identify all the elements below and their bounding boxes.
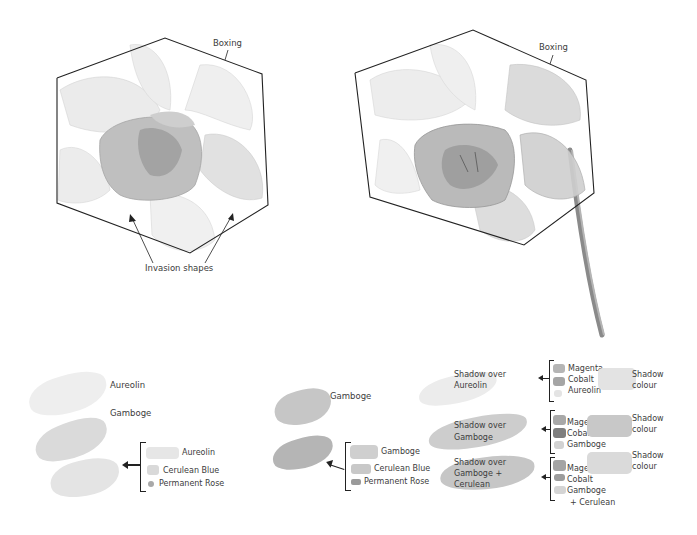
swatch-panel-right: Shadow over Aureolin Magenta Cobalt Aure… xyxy=(410,355,697,535)
aureolin-swatch xyxy=(24,364,112,425)
comp-swatch-gamboge-2 xyxy=(554,441,564,449)
comp-label-gamboge-3: Gamboge xyxy=(567,486,606,497)
comp-swatch-magenta-1 xyxy=(553,364,565,373)
comp-label-aureolin-1: Aureolin xyxy=(568,386,601,397)
gamboge-label: Gamboge xyxy=(110,408,151,419)
mix-swatch-cerulean-blue xyxy=(147,465,159,475)
mix-swatch-permanent-rose xyxy=(148,481,154,487)
mix-label-permanent-rose: Permanent Rose xyxy=(159,479,224,490)
arrow-head-group3 xyxy=(541,474,546,480)
shadow-result-label-1-line1: Shadow xyxy=(632,370,664,381)
shadow-base-gamboge xyxy=(426,407,530,457)
left-daffodil-figure: Boxing Invasion shapes xyxy=(0,0,340,300)
shadow-result-swatch-3 xyxy=(587,452,632,474)
invasion-shapes-label: Invasion shapes xyxy=(145,263,213,274)
mix-swatch-cerulean-middle xyxy=(351,464,371,474)
comp-label-cobalt-3: Cobalt xyxy=(567,475,593,486)
comp-swatch-gamboge-3 xyxy=(554,486,566,494)
mix-swatch-gamboge xyxy=(350,445,378,459)
shadow-result-label-3-line1: Shadow xyxy=(632,451,664,462)
comp-swatch-cobalt-2 xyxy=(553,428,566,438)
shadow-result-label-2-line1: Shadow xyxy=(632,414,664,425)
shadow-title-aureolin-line1: Shadow over xyxy=(454,370,506,381)
shadow-result-label-1-line2: colour xyxy=(632,381,657,392)
right-boxing-label: Boxing xyxy=(539,42,568,53)
mixed-swatch-middle xyxy=(269,429,337,477)
shadow-title-gc-line1: Shadow over xyxy=(454,458,506,469)
gamboge-swatch-middle xyxy=(270,382,336,432)
aureolin-label: Aureolin xyxy=(110,380,145,391)
comp-swatch-cobalt-1 xyxy=(553,377,565,386)
mix-label-aureolin: Aureolin xyxy=(182,448,215,459)
shadow-title-gc-line2: Gamboge + xyxy=(454,469,502,480)
comp-label-cobalt-1: Cobalt xyxy=(568,375,594,386)
shadow-result-label-2-line2: colour xyxy=(632,425,657,436)
shadow-title-gamboge-line2: Gamboge xyxy=(454,433,493,444)
gamboge-label-middle: Gamboge xyxy=(330,391,371,402)
shadow-result-swatch-2 xyxy=(587,415,632,437)
shadow-title-gc-line3: Cerulean xyxy=(454,480,490,491)
comp-label-gamboge-2: Gamboge xyxy=(567,440,606,451)
mix-label-cerulean-blue: Cerulean Blue xyxy=(163,466,219,477)
comp-swatch-magenta-2 xyxy=(553,415,566,425)
comp-swatch-cobalt-3 xyxy=(554,474,565,481)
arrow-head-group2 xyxy=(541,426,546,432)
swatch-panel-left: Aureolin Gamboge Aureolin Cerulean Blue … xyxy=(0,360,260,535)
shadow-result-label-3-line2: colour xyxy=(632,462,657,473)
comp-swatch-magenta-3 xyxy=(553,460,566,471)
right-daffodil-illustration xyxy=(340,0,697,345)
mix-swatch-rose-middle xyxy=(351,479,361,485)
right-daffodil-figure: Boxing xyxy=(340,0,697,345)
arrow-head-left xyxy=(122,461,128,469)
shadow-title-aureolin-line2: Aureolin xyxy=(454,381,487,392)
comp-swatch-aureolin-1 xyxy=(554,390,562,397)
shadow-result-swatch-1 xyxy=(598,368,636,390)
mix-swatch-aureolin xyxy=(146,447,179,459)
left-boxing-label: Boxing xyxy=(213,38,242,49)
arrow-head-group1 xyxy=(538,375,543,381)
comp-extra-cerulean: + Cerulean xyxy=(570,498,615,509)
left-daffodil-illustration xyxy=(0,0,340,300)
shadow-title-gamboge-line1: Shadow over xyxy=(454,421,506,432)
